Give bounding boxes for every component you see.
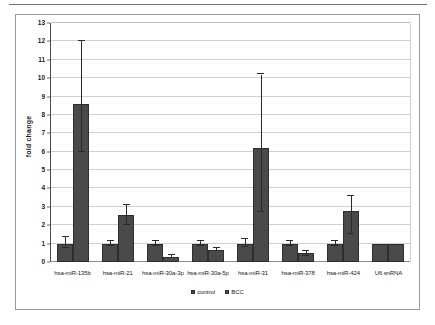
bar-slot	[372, 23, 388, 262]
bar-group-bars	[365, 23, 410, 262]
bar-slot	[118, 23, 134, 262]
error-bar-cap-top	[197, 240, 204, 241]
error-bar-cap-top	[241, 238, 248, 239]
x-axis-label: hsa-miR-21	[95, 267, 140, 279]
bar-group	[231, 23, 276, 262]
legend-label: BCC	[231, 289, 244, 295]
bar[interactable]	[282, 244, 298, 262]
bar-group	[275, 23, 320, 262]
legend-item[interactable]: BCC	[225, 289, 244, 295]
error-bar-cap-top	[286, 240, 293, 241]
error-bar-cap-bottom	[241, 246, 248, 247]
bar-group	[51, 23, 96, 262]
y-tick-label-10: 10	[38, 75, 45, 82]
error-bar-cap-bottom	[78, 151, 85, 152]
bar[interactable]	[372, 244, 388, 262]
y-tick-label-6: 6	[41, 148, 45, 155]
y-tick-label-7: 7	[41, 130, 45, 137]
bar-groups	[51, 23, 410, 262]
bar-slot	[237, 23, 253, 262]
y-tick-label-13: 13	[38, 20, 45, 27]
x-axis-label: hsa-miR-31	[231, 267, 276, 279]
x-axis-labels: hsa-miR-135bhsa-miR-21hsa-miR-30a-3phsa-…	[50, 267, 411, 279]
error-bar-line	[216, 248, 217, 250]
bar-group	[96, 23, 141, 262]
bar-slot	[253, 23, 269, 262]
bar[interactable]	[208, 250, 224, 263]
bar-slot	[298, 23, 314, 262]
error-bar-cap-bottom	[302, 255, 309, 256]
plot-area	[50, 23, 411, 262]
bar-group	[141, 23, 186, 262]
error-bar-cap-top	[62, 236, 69, 237]
plot-wrapper: fold change 012345678910111213 hsa-miR-1…	[16, 15, 419, 309]
bar-slot	[147, 23, 163, 262]
x-axis-label: hsa-miR-135b	[50, 267, 95, 279]
error-bar-cap-top	[347, 195, 354, 196]
bar-slot	[208, 23, 224, 262]
bar[interactable]	[102, 244, 118, 262]
error-bar-line	[171, 255, 172, 257]
bar-group-bars	[51, 23, 96, 262]
x-axis-label: hsa-miR-378	[276, 267, 321, 279]
bar-group-bars	[96, 23, 141, 262]
error-bar-cap-bottom	[107, 245, 114, 246]
y-tick-label-5: 5	[41, 167, 45, 174]
error-bar-cap-top	[213, 247, 220, 248]
error-bar-cap-bottom	[152, 245, 159, 246]
error-bar-cap-top	[123, 204, 130, 205]
bar[interactable]	[163, 257, 179, 262]
bar-slot	[282, 23, 298, 262]
legend-item[interactable]: control	[191, 289, 215, 295]
x-axis-label: U6 snRNA	[366, 267, 411, 279]
error-bar-line	[126, 205, 127, 225]
error-bar-cap-top	[302, 250, 309, 251]
bar[interactable]	[147, 244, 163, 262]
bar-group-bars	[186, 23, 231, 262]
error-bar-cap-bottom	[257, 211, 264, 212]
error-bar-cap-top	[331, 240, 338, 241]
legend-swatch-icon	[225, 290, 229, 294]
y-axis-ticks: 012345678910111213	[16, 15, 50, 309]
bar-group-bars	[275, 23, 320, 262]
error-bar-line	[81, 41, 82, 151]
chart-frame: fold change 012345678910111213 hsa-miR-1…	[15, 14, 420, 310]
error-bar-cap-top	[107, 240, 114, 241]
bar-group-bars	[231, 23, 276, 262]
chart-legend: controlBCC	[16, 289, 419, 295]
legend-swatch-icon	[191, 290, 195, 294]
top-divider-rule	[9, 4, 427, 5]
y-tick-label-1: 1	[41, 240, 45, 247]
y-tick-label-11: 11	[38, 57, 45, 64]
bar[interactable]	[192, 244, 208, 262]
x-axis-label: hsa-miR-30a-3p	[140, 267, 185, 279]
bar-slot	[73, 23, 89, 262]
error-bar-cap-bottom	[286, 245, 293, 246]
bar-slot	[102, 23, 118, 262]
error-bar-cap-bottom	[197, 245, 204, 246]
bar-slot	[343, 23, 359, 262]
x-axis-label: hsa-miR-424	[321, 267, 366, 279]
bar[interactable]	[388, 244, 404, 262]
bar-slot	[57, 23, 73, 262]
error-bar-line	[261, 75, 262, 213]
error-bar-cap-top	[152, 240, 159, 241]
bar-group-bars	[141, 23, 186, 262]
bar-group	[365, 23, 410, 262]
y-tick-label-8: 8	[41, 112, 45, 119]
bar-group	[186, 23, 231, 262]
bar-group-bars	[320, 23, 365, 262]
bar[interactable]	[327, 244, 343, 262]
error-bar-cap-top	[168, 254, 175, 255]
legend-label: control	[197, 289, 215, 295]
error-bar-cap-bottom	[62, 247, 69, 248]
error-bar-cap-bottom	[347, 233, 354, 234]
error-bar-cap-bottom	[123, 224, 130, 225]
y-tick-label-4: 4	[41, 185, 45, 192]
bar-slot	[327, 23, 343, 262]
bar-slot	[163, 23, 179, 262]
error-bar-cap-bottom	[331, 245, 338, 246]
y-tick-label-2: 2	[41, 222, 45, 229]
bar-slot	[192, 23, 208, 262]
y-tick-label-9: 9	[41, 93, 45, 100]
